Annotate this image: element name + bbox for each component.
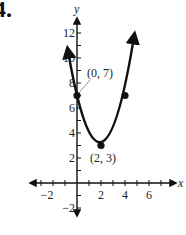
y-tick-label: 6 — [69, 101, 75, 115]
x-tick-label: 4 — [122, 188, 128, 202]
y-tick-label: 2 — [69, 151, 75, 165]
y-tick-label: −2 — [62, 201, 75, 215]
y-axis-label: y — [73, 2, 80, 16]
point-label-0-7: (0, 7) — [87, 66, 113, 80]
parabola-graph: x y −2 2 4 6 −2 2 4 6 8 10 12 (0, 7) (2,… — [0, 0, 186, 235]
x-tick-label: 6 — [146, 188, 152, 202]
x-tick-label: −2 — [41, 188, 54, 202]
vertex-point-2-3 — [97, 142, 104, 149]
x-axis-label: x — [177, 176, 184, 190]
y-tick-label: 4 — [69, 126, 75, 140]
leader-line — [79, 80, 90, 93]
x-tick-label: 2 — [98, 188, 104, 202]
y-tick-label: 12 — [63, 26, 75, 40]
point-label-2-3: (2, 3) — [90, 151, 116, 165]
point-4-7 — [121, 92, 128, 99]
